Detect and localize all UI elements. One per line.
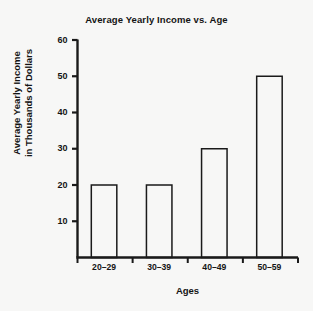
bar-30-39 [146,185,172,258]
bar-20-29 [91,185,117,258]
x-tick-label-20-29: 20–29 [81,262,127,272]
x-tick-label-30-39: 30–39 [136,262,182,272]
x-tick-label-40-49: 40–49 [191,262,237,272]
bar-40-49 [202,149,228,258]
y-tick-label-60: 60 [42,36,68,45]
y-tick-label-20: 20 [42,181,68,190]
x-tick-label-50-59: 50–59 [246,262,292,272]
bars-group [91,76,282,257]
y-tick-label-30: 30 [42,144,68,153]
y-tick-label-40: 40 [42,108,68,117]
y-tick-label-50: 50 [42,72,68,81]
bar-50-59 [257,76,283,257]
bar-chart-figure: Average Yearly Income vs. Age Average Ye… [0,0,313,311]
y-tick-label-10: 10 [42,217,68,226]
